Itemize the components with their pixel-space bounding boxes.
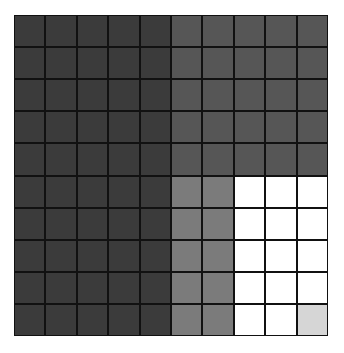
grid-cell-dark (46, 144, 75, 174)
grid-cell-dark (78, 273, 107, 303)
grid-cell-white (235, 177, 264, 207)
grid-cell-medium-dark (172, 48, 201, 78)
grid-cell-medium-dark (172, 16, 201, 46)
grid-cell-medium-dark (266, 144, 295, 174)
grid-cell-medium (203, 241, 232, 271)
grid-cell-dark (78, 209, 107, 239)
grid-cell-dark (109, 144, 138, 174)
grid-cell-dark (15, 177, 44, 207)
grid-cell-medium (203, 273, 232, 303)
grid-cell-dark (78, 80, 107, 110)
grid-cell-dark (109, 273, 138, 303)
grid-cell-medium-dark (203, 48, 232, 78)
grid-cell-dark (109, 177, 138, 207)
grid-cell-dark (46, 16, 75, 46)
grid-cell-white (266, 177, 295, 207)
grid-cell-dark (109, 241, 138, 271)
grid-cell-light (298, 305, 327, 335)
grid-cell-dark (141, 241, 170, 271)
grid-cell-dark (78, 48, 107, 78)
grid-cell-dark (78, 305, 107, 335)
grid-cell-dark (46, 177, 75, 207)
grid-cell-dark (78, 241, 107, 271)
grid-cell-dark (141, 16, 170, 46)
grid-cell-dark (78, 177, 107, 207)
grid-cell-dark (141, 48, 170, 78)
grid-cell-dark (141, 80, 170, 110)
grid-cell-medium (172, 241, 201, 271)
grid-cell-dark (78, 112, 107, 142)
grid-cell-medium (203, 305, 232, 335)
grid-cell-medium-dark (172, 112, 201, 142)
grid-cell-medium-dark (235, 144, 264, 174)
grid-cell-white (266, 241, 295, 271)
canvas (0, 0, 344, 353)
grid-cell-medium-dark (266, 80, 295, 110)
grid-cell-dark (109, 48, 138, 78)
grid-cell-dark (46, 305, 75, 335)
grid-cell-medium-dark (266, 112, 295, 142)
grid-cell-dark (78, 16, 107, 46)
grid-cell-dark (46, 80, 75, 110)
grid-cell-dark (15, 80, 44, 110)
grid-cell-dark (46, 209, 75, 239)
grid-cell-dark (141, 144, 170, 174)
grid-cell-dark (46, 112, 75, 142)
grid-cell-medium (172, 209, 201, 239)
hundred-grid (14, 15, 328, 336)
grid-cell-medium-dark (203, 16, 232, 46)
grid-cell-dark (46, 48, 75, 78)
grid-cell-white (298, 241, 327, 271)
grid-cell-medium (203, 177, 232, 207)
grid-cell-dark (15, 273, 44, 303)
grid-cell-dark (78, 144, 107, 174)
grid-cell-dark (15, 305, 44, 335)
grid-cell-dark (15, 209, 44, 239)
grid-cell-medium-dark (266, 16, 295, 46)
grid-cell-dark (141, 112, 170, 142)
grid-cell-dark (46, 273, 75, 303)
grid-cell-dark (15, 144, 44, 174)
grid-cell-medium-dark (172, 144, 201, 174)
grid-cell-medium (172, 305, 201, 335)
grid-cell-white (266, 305, 295, 335)
grid-cell-medium (172, 273, 201, 303)
grid-cell-medium (203, 209, 232, 239)
grid-cell-medium-dark (298, 48, 327, 78)
grid-cell-medium-dark (235, 80, 264, 110)
grid-cell-medium-dark (298, 80, 327, 110)
grid-cell-white (298, 273, 327, 303)
grid-cell-white (266, 273, 295, 303)
grid-cell-white (266, 209, 295, 239)
grid-cell-dark (46, 241, 75, 271)
grid-cell-medium-dark (266, 48, 295, 78)
grid-cell-medium-dark (203, 112, 232, 142)
grid-cell-medium-dark (203, 144, 232, 174)
grid-cell-dark (141, 209, 170, 239)
grid-cell-white (235, 273, 264, 303)
grid-cell-medium-dark (235, 112, 264, 142)
grid-cell-white (235, 209, 264, 239)
grid-cell-dark (141, 177, 170, 207)
grid-cell-medium-dark (203, 80, 232, 110)
grid-cell-white (298, 177, 327, 207)
grid-cell-dark (109, 16, 138, 46)
grid-cell-dark (109, 80, 138, 110)
grid-cell-dark (15, 48, 44, 78)
grid-cell-medium-dark (298, 16, 327, 46)
grid-cell-dark (109, 305, 138, 335)
grid-cell-medium-dark (172, 80, 201, 110)
grid-cell-dark (15, 16, 44, 46)
grid-cell-medium-dark (298, 112, 327, 142)
grid-cell-dark (141, 273, 170, 303)
grid-cell-dark (109, 209, 138, 239)
grid-cell-medium-dark (235, 48, 264, 78)
grid-cell-medium-dark (235, 16, 264, 46)
grid-cell-white (235, 305, 264, 335)
grid-cell-dark (15, 112, 44, 142)
grid-cell-dark (15, 241, 44, 271)
grid-cell-dark (109, 112, 138, 142)
grid-cell-dark (141, 305, 170, 335)
grid-cell-white (298, 209, 327, 239)
grid-cell-white (235, 241, 264, 271)
